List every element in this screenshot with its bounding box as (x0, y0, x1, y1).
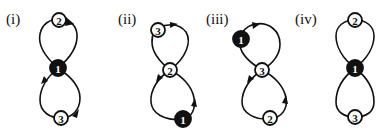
panel-iii: (iii) 1 3 2 (206, 11, 288, 125)
svg-text:2: 2 (56, 15, 62, 27)
panel-i: (i) 2 1 3 (6, 11, 80, 125)
svg-text:1: 1 (352, 63, 358, 75)
node-3: 3 (54, 111, 68, 125)
panel-label: (iii) (206, 11, 229, 28)
node-2: 2 (52, 13, 66, 27)
node-2: 2 (163, 63, 177, 77)
node-3: 3 (255, 63, 269, 77)
svg-text:1: 1 (238, 34, 244, 46)
node-2: 2 (348, 13, 362, 27)
node-1: 1 (347, 60, 363, 76)
panel-ii: (ii) 3 2 1 (118, 11, 197, 127)
svg-text:3: 3 (352, 112, 358, 124)
node-1: 1 (233, 31, 249, 47)
svg-text:2: 2 (352, 15, 358, 27)
node-2: 2 (263, 111, 277, 125)
panel-iv: (iv) 2 1 3 (295, 11, 374, 124)
panel-label: (ii) (118, 11, 136, 28)
panel-label: (iv) (295, 11, 317, 28)
node-1: 1 (175, 111, 191, 127)
node-3: 3 (348, 110, 362, 124)
svg-text:2: 2 (167, 65, 173, 77)
svg-text:3: 3 (58, 113, 64, 125)
node-1: 1 (50, 60, 66, 76)
arrow-icon (156, 74, 163, 82)
svg-text:1: 1 (180, 114, 186, 126)
arrow-icon (247, 75, 254, 83)
svg-text:3: 3 (259, 65, 265, 77)
node-3: 3 (151, 23, 165, 37)
panel-label: (i) (6, 11, 20, 28)
svg-text:3: 3 (155, 25, 161, 37)
figure-eight-diagrams: (i) 2 1 3 (ii) 3 (0, 0, 389, 138)
svg-text:2: 2 (267, 113, 273, 125)
svg-text:1: 1 (55, 63, 61, 75)
